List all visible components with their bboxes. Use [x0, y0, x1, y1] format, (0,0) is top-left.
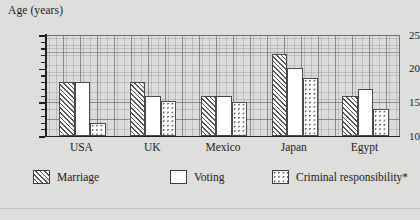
- y-axis-major-tick: [39, 35, 46, 37]
- y-axis-minor-tick: [41, 75, 45, 76]
- y-axis-tick-label: 20: [384, 63, 420, 74]
- y-axis-minor-tick: [41, 42, 45, 43]
- legend-item-voting[interactable]: Voting: [170, 168, 224, 186]
- y-axis-minor-tick: [41, 116, 45, 117]
- bar-uk-criminal: [161, 101, 177, 136]
- bar-mexico-voting: [216, 96, 232, 136]
- legend-swatch-voting-icon: [170, 170, 187, 184]
- x-axis-line: [45, 136, 400, 138]
- y-axis-line: [45, 34, 47, 137]
- legend-label: Marriage: [57, 171, 99, 184]
- bar-japan-marriage: [272, 54, 288, 136]
- bar-japan-voting: [287, 68, 303, 136]
- y-axis-tick-label: 10: [384, 131, 420, 142]
- y-axis-minor-tick: [41, 129, 45, 130]
- y-axis-major-tick: [39, 102, 46, 104]
- y-axis-tick-label: 25: [384, 30, 420, 41]
- legend-swatch-criminal-icon: [272, 170, 289, 184]
- legend-label: Criminal responsibility*: [296, 171, 408, 184]
- legend-item-criminal[interactable]: Criminal responsibility*: [272, 168, 408, 186]
- y-axis-minor-tick: [41, 123, 45, 124]
- plot-right-border: [399, 35, 400, 136]
- bar-usa-criminal: [90, 123, 106, 136]
- legend-label: Voting: [194, 171, 224, 184]
- bottom-divider: [0, 208, 420, 209]
- bar-usa-voting: [75, 82, 91, 136]
- y-axis-tick-label: 15: [384, 97, 420, 108]
- bar-mexico-marriage: [201, 96, 217, 136]
- bar-egypt-marriage: [342, 96, 358, 136]
- legend-swatch-marriage-icon: [33, 170, 50, 184]
- x-axis-label-egypt: Egypt: [329, 141, 400, 153]
- y-axis-minor-tick: [41, 109, 45, 110]
- y-axis-title: Age (years): [8, 4, 63, 16]
- bar-usa-marriage: [59, 82, 75, 136]
- y-axis-minor-tick: [41, 62, 45, 63]
- y-axis-major-tick: [39, 136, 46, 138]
- bar-uk-marriage: [130, 82, 146, 136]
- plot-top-border: [46, 35, 400, 36]
- y-axis-minor-tick: [41, 55, 45, 56]
- x-axis-label-mexico: Mexico: [188, 141, 259, 153]
- bar-chart: Age (years) 10152025 USAUKMexicoJapanEgy…: [0, 0, 420, 220]
- x-axis-label-usa: USA: [46, 141, 117, 153]
- y-axis-minor-tick: [41, 48, 45, 49]
- y-axis-minor-tick: [41, 82, 45, 83]
- bar-mexico-criminal: [232, 102, 248, 136]
- y-axis-minor-tick: [41, 89, 45, 90]
- bar-egypt-voting: [358, 89, 374, 136]
- bar-japan-criminal: [303, 78, 319, 136]
- y-axis-minor-tick: [41, 96, 45, 97]
- x-axis-label-japan: Japan: [258, 141, 329, 153]
- bar-uk-voting: [145, 96, 161, 136]
- plot-area: [46, 35, 400, 136]
- chart-legend: MarriageVotingCriminal responsibility*: [0, 168, 420, 190]
- y-axis-major-tick: [39, 69, 46, 71]
- legend-item-marriage[interactable]: Marriage: [33, 168, 99, 186]
- x-axis-label-uk: UK: [117, 141, 188, 153]
